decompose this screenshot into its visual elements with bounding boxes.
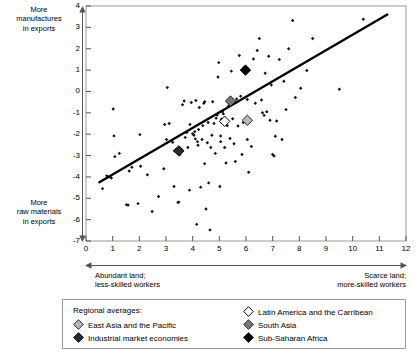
scatter-point [195,223,198,226]
scatter-point [139,165,142,168]
diamond-icon [73,319,84,330]
scatter-point [247,171,250,174]
scatter-point [194,137,197,140]
scatter-point [172,185,175,188]
scatter-point [216,75,219,78]
scatter-point [275,119,278,122]
scatter-point [246,138,249,141]
scatter-point [258,37,261,40]
scatter-point [182,99,185,102]
legend-item-label: South Asia [258,321,296,330]
scatter-point [130,166,133,169]
legend-item-label: Sub-Saharan Africa [258,334,327,343]
scatter-point [223,146,226,149]
scatter-point [190,101,193,104]
legend-item-label: East Asia and the Pacific [88,321,176,330]
scatter-point [231,117,234,120]
scatter-point [284,108,287,111]
scatter-point [264,72,267,75]
scatter-point [146,173,149,176]
scatter-point [228,137,231,140]
scatter-point [184,136,187,139]
scatter-point [252,57,255,60]
regional-average-marker [240,65,250,75]
diamond-icon [73,332,84,343]
scatter-point [256,49,259,52]
scatter-point [217,61,220,64]
scatter-point [118,152,121,155]
scatter-point [206,141,209,144]
regional-average-marker [174,146,184,156]
scatter-point [196,140,199,143]
scatter-point [230,69,233,72]
scatter-point [181,103,184,106]
scatter-point [246,98,249,101]
scatter-point [232,142,235,145]
scatter-point [101,187,104,190]
legend-item-label: Latin America and the Carribean [258,308,373,317]
scatter-point [211,100,214,103]
scatter-point [262,114,265,117]
scatter-point [188,188,191,191]
scatter-point [311,37,314,40]
scatter-point [150,210,153,213]
scatter-point [338,88,341,91]
scatter-point [305,69,308,72]
scatter-point [201,124,204,127]
scatter-point [138,133,141,136]
scatter-point [112,107,115,110]
scatter-point [265,110,268,113]
scatter-point [254,102,257,105]
scatter-point [113,155,116,158]
scatter-point [198,106,201,109]
scatter-point [208,228,211,231]
scatter-point [210,134,213,137]
scatter-point [268,119,271,122]
scatter-point [212,122,215,125]
x-axis-left-annotation: Abundant land; less-skilled workers [95,271,160,290]
legend-box: Regional averages: East Asia and the Pac… [62,299,406,349]
legend-item: Industrial market economies [73,332,188,343]
scatter-point [209,146,212,149]
scatter-point [219,140,222,143]
legend-item-label: Industrial market economies [88,334,188,343]
scatter-point [207,181,210,184]
trend-line [99,15,387,183]
chart-figure: More manufactures in exports More raw ma… [0,0,418,358]
scatter-point [240,153,243,156]
scatter-point [214,116,217,119]
scatter-point [282,80,285,83]
scatter-point [136,202,139,205]
scatter-point [214,152,217,155]
scatter-point [206,121,209,124]
legend-item: East Asia and the Pacific [73,319,176,330]
scatter-point [200,138,203,141]
scatter-point [250,145,253,148]
scatter-point [274,135,277,138]
scatter-point [199,185,202,188]
legend-title: Regional averages: [73,306,142,315]
scatter-point [234,160,237,163]
scatter-point [197,128,200,131]
diamond-icon [243,332,254,343]
legend-item: South Asia [243,319,296,330]
scatter-point [204,207,207,210]
scatter-point [186,146,189,149]
x-axis-right-annotation: Scarce land; more-skilled workers [337,271,406,290]
scatter-point [165,138,168,141]
scatter-point [267,55,270,58]
scatter-point [287,47,290,50]
scatter-point [239,94,242,97]
scatter-point [166,86,169,89]
diamond-icon [243,319,254,330]
scatter-point [128,169,131,172]
scatter-point [260,98,263,101]
legend-item: Sub-Saharan Africa [243,332,327,343]
scatter-point [162,167,165,170]
scatter-point [224,161,227,164]
regional-average-marker [242,115,252,125]
scatter-point [238,54,241,57]
scatter-point [112,134,115,137]
scatter-point [163,123,166,126]
scatter-point [294,96,297,99]
